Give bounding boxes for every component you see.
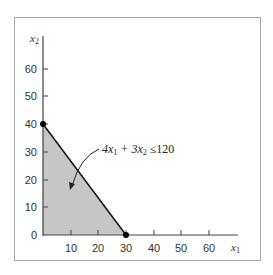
- y-tick-label: 60: [25, 63, 37, 75]
- vertex-marker: [40, 121, 46, 127]
- y-tick-label: 40: [25, 118, 37, 130]
- x-tick-label: 40: [148, 242, 160, 254]
- y-tick-label: 0: [31, 229, 37, 241]
- y-tick-label: 50: [25, 90, 37, 102]
- y-axis-label: x2: [29, 32, 39, 46]
- x-tick-label: 10: [65, 242, 77, 254]
- constraint-annotation: 4x1 + 3x2 ≤120: [102, 142, 174, 157]
- y-tick-label: 10: [25, 201, 37, 213]
- y-tick-label: 20: [25, 174, 37, 186]
- x-tick-label: 50: [175, 242, 187, 254]
- x-tick-label: 60: [203, 242, 215, 254]
- vertex-marker: [123, 232, 129, 238]
- chart-svg: 0 10 20 30 40 50 60 10 20 30 40 50 60 x2…: [0, 0, 273, 275]
- x-tick-label: 20: [92, 242, 104, 254]
- x-tick-label: 30: [120, 242, 132, 254]
- y-tick-label: 30: [25, 146, 37, 158]
- x-axis-label: x1: [230, 241, 240, 255]
